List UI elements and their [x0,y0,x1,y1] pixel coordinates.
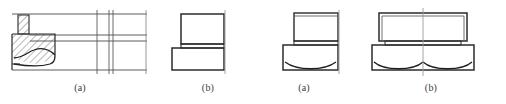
caption-right-b: (b) [413,82,449,94]
panel-right-b-geometry [372,8,474,76]
panel-left-a-geometry [12,10,147,74]
right-b-concave-arc-right [423,62,472,69]
left-a-hatched-section [12,15,55,70]
left-b-lower-block [172,48,224,70]
panel-right-a-geometry [283,10,339,74]
panel-left-b-geometry [172,10,225,74]
caption-left-a: (a) [62,82,98,94]
right-a-base-block [283,45,338,70]
caption-left-b: (b) [190,82,226,94]
right-a-upper-block [294,13,338,41]
right-b-concave-arc-left [374,62,423,69]
right-a-concave-arc [285,62,336,69]
drawing-sheet: (a) (b) (a) (b) [0,0,506,104]
left-b-upper-block [181,14,224,44]
left-a-vertical-construction-lines [97,10,113,74]
caption-right-a: (a) [286,82,322,94]
